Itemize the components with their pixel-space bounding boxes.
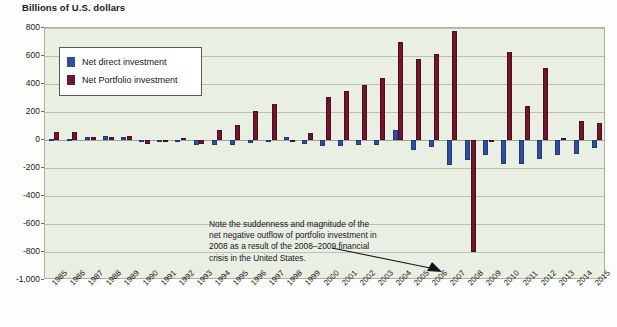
bar-portfolio-2015 bbox=[597, 123, 602, 140]
annotation-arrow-icon bbox=[330, 246, 450, 276]
bar-portfolio-1999 bbox=[308, 133, 313, 140]
bar-direct-1986 bbox=[67, 139, 72, 141]
bar-direct-2009 bbox=[483, 140, 488, 155]
bar-portfolio-1985 bbox=[54, 132, 59, 140]
bar-direct-2011 bbox=[519, 140, 524, 164]
legend-item-direct: Net direct investment bbox=[67, 53, 194, 71]
bar-direct-1995 bbox=[230, 140, 235, 145]
bar-portfolio-1994 bbox=[217, 130, 222, 140]
y-tick-label: 200 bbox=[0, 106, 40, 116]
bar-portfolio-1996 bbox=[253, 111, 258, 140]
bar-portfolio-1995 bbox=[235, 125, 240, 140]
bar-portfolio-2002 bbox=[362, 85, 367, 140]
bar-portfolio-1993 bbox=[199, 140, 204, 144]
bar-direct-2003 bbox=[374, 140, 379, 145]
bar-direct-2014 bbox=[574, 140, 579, 154]
bar-portfolio-1986 bbox=[72, 132, 77, 140]
gridline-800 bbox=[45, 28, 604, 29]
bar-direct-2006 bbox=[429, 140, 434, 147]
y-tick-label: -1,000 bbox=[0, 274, 40, 284]
bar-direct-1992 bbox=[175, 140, 180, 142]
bar-portfolio-2012 bbox=[543, 68, 548, 140]
bar-portfolio-1987 bbox=[91, 137, 96, 140]
bar-portfolio-2013 bbox=[561, 138, 566, 140]
y-tick-label: -600 bbox=[0, 218, 40, 228]
bar-direct-2001 bbox=[338, 140, 343, 146]
bar-direct-1997 bbox=[266, 140, 271, 142]
y-tick-label: -400 bbox=[0, 190, 40, 200]
bar-direct-2005 bbox=[411, 140, 416, 150]
chart-legend: Net direct investment Net Portfolio inve… bbox=[59, 47, 202, 96]
bar-direct-1996 bbox=[248, 140, 253, 143]
bar-direct-2010 bbox=[501, 140, 506, 164]
gridline-200 bbox=[45, 112, 604, 113]
bar-direct-1993 bbox=[194, 140, 199, 145]
x-axis: 1985198619871988198919901991199219931994… bbox=[44, 279, 605, 327]
chart-figure: Billions of U.S. dollars 8006004002000-2… bbox=[0, 0, 617, 327]
bar-direct-2002 bbox=[356, 140, 361, 145]
bar-direct-2013 bbox=[555, 140, 560, 155]
bar-direct-2000 bbox=[320, 140, 325, 146]
bar-portfolio-2007 bbox=[452, 31, 457, 140]
bar-portfolio-1989 bbox=[127, 136, 132, 140]
bar-portfolio-2011 bbox=[525, 106, 530, 140]
bar-portfolio-1988 bbox=[109, 137, 114, 140]
legend-label-direct: Net direct investment bbox=[82, 57, 167, 67]
chart-title: Billions of U.S. dollars bbox=[22, 2, 125, 13]
annotation-line-1: Note the suddenness and magnitude of the bbox=[209, 219, 419, 230]
bar-direct-1989 bbox=[121, 137, 126, 141]
bar-direct-1990 bbox=[139, 140, 144, 142]
legend-swatch-portfolio-icon bbox=[67, 75, 75, 85]
legend-item-portfolio: Net Portfolio investment bbox=[67, 71, 194, 89]
bar-portfolio-2005 bbox=[416, 59, 421, 140]
y-tick-label: 0 bbox=[0, 134, 40, 144]
bar-direct-2004 bbox=[393, 130, 398, 141]
bar-portfolio-1990 bbox=[145, 140, 150, 144]
y-tick-label: 400 bbox=[0, 78, 40, 88]
bar-portfolio-1992 bbox=[181, 138, 186, 140]
annotation-line-2: net negative outflow of portfolio invest… bbox=[209, 230, 419, 241]
bar-direct-2012 bbox=[537, 140, 542, 159]
bar-direct-2007 bbox=[447, 140, 452, 165]
y-tick-label: -800 bbox=[0, 246, 40, 256]
bar-portfolio-2010 bbox=[507, 52, 512, 140]
legend-label-portfolio: Net Portfolio investment bbox=[82, 75, 178, 85]
bar-portfolio-1991 bbox=[163, 140, 168, 142]
bar-portfolio-2001 bbox=[344, 91, 349, 140]
bar-direct-1994 bbox=[212, 140, 217, 145]
bar-direct-1988 bbox=[103, 136, 108, 140]
bar-portfolio-2006 bbox=[434, 54, 439, 140]
legend-swatch-direct-icon bbox=[67, 57, 75, 67]
bar-portfolio-2014 bbox=[579, 121, 584, 140]
bar-portfolio-2009 bbox=[489, 140, 494, 142]
y-tick-label: 800 bbox=[0, 22, 40, 32]
y-tick-label: 600 bbox=[0, 50, 40, 60]
gridline--200 bbox=[45, 168, 604, 169]
bar-portfolio-2008 bbox=[471, 140, 476, 252]
bar-portfolio-2004 bbox=[398, 42, 403, 140]
bar-direct-1987 bbox=[85, 137, 90, 140]
bar-direct-1985 bbox=[49, 139, 54, 141]
y-tick-label: -200 bbox=[0, 162, 40, 172]
bar-direct-1999 bbox=[302, 140, 307, 144]
bar-direct-2008 bbox=[465, 140, 470, 160]
bar-portfolio-1998 bbox=[290, 140, 295, 142]
bar-direct-1991 bbox=[157, 140, 162, 142]
bar-portfolio-2003 bbox=[380, 78, 385, 140]
bar-direct-1998 bbox=[284, 137, 289, 140]
bar-portfolio-2000 bbox=[326, 97, 331, 140]
bar-portfolio-1997 bbox=[272, 104, 277, 140]
gridline--400 bbox=[45, 196, 604, 197]
bar-direct-2015 bbox=[592, 140, 597, 148]
